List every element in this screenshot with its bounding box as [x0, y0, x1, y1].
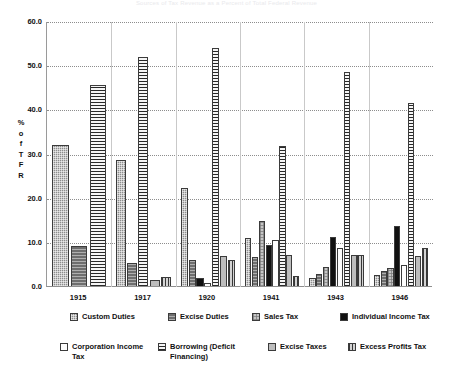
bar-borrow-1915: [90, 85, 107, 286]
y-axis-tick-label: 20.0: [0, 195, 42, 203]
bar-borrow-1917: [138, 57, 148, 286]
y-axis-title-char: %: [14, 118, 28, 129]
bar-corpinc-1946: [401, 265, 407, 286]
bar-group-1943: [304, 21, 368, 286]
legend-row-2: Corporation Income TaxBorrowing (Deficit…: [0, 342, 453, 372]
bar-borrow-1941: [279, 146, 285, 286]
y-axis-title-char: o: [14, 129, 28, 140]
chart-container: Sources of Tax Revenue as a Percent of T…: [0, 0, 453, 378]
legend-item-excprof[interactable]: Excess Profits Tax: [348, 342, 448, 352]
bar-borrow-1920: [212, 48, 219, 287]
bar-corpinc-1943: [337, 248, 343, 286]
y-axis-title-char: F: [14, 160, 28, 171]
bar-indinc-1920: [196, 278, 203, 286]
bar-indinc-1941: [266, 245, 272, 286]
legend-label: Custom Duties: [82, 312, 135, 322]
legend-swatch-corpinc: [60, 343, 68, 351]
x-axis-label-1946: 1946: [375, 293, 425, 302]
legend-label: Excess Profits Tax: [360, 342, 426, 352]
y-axis-title-char: f: [14, 139, 28, 150]
bar-indinc-1943: [330, 237, 336, 286]
bar-group-1920: [176, 21, 240, 286]
x-axis-label-1920: 1920: [182, 293, 232, 302]
x-axis-label-1915: 1915: [53, 293, 103, 302]
legend-label: Individual Income Tax: [352, 312, 430, 322]
bar-excised-1941: [252, 257, 258, 286]
bar-exctax-1920: [220, 256, 227, 286]
y-axis-tick-label: 0.0: [0, 283, 42, 291]
y-axis-tick-label: 40.0: [0, 106, 42, 114]
y-axis-title: %ofTFR: [14, 118, 28, 181]
bar-custom-1941: [245, 238, 251, 286]
x-axis-label-1941: 1941: [246, 293, 296, 302]
plot-area: [46, 22, 432, 287]
legend-row-1: Custom DutiesExcise DutiesSales TaxIndiv…: [0, 312, 453, 342]
bar-group-1941: [240, 21, 304, 286]
bar-excprof-1943: [357, 255, 363, 286]
bar-borrow-1946: [408, 103, 414, 286]
legend-item-custom[interactable]: Custom Duties: [70, 312, 165, 322]
bar-exctax-1943: [351, 255, 357, 286]
legend-label: Excise Taxes: [280, 342, 327, 352]
chart-legend: Custom DutiesExcise DutiesSales TaxIndiv…: [0, 312, 453, 372]
legend-item-exctax[interactable]: Excise Taxes: [268, 342, 346, 352]
bar-group-1946: [369, 21, 433, 286]
bar-excised-1920: [189, 260, 196, 286]
y-axis-tick-label: 60.0: [0, 18, 42, 26]
legend-swatch-indinc: [340, 313, 348, 321]
legend-item-sales[interactable]: Sales Tax: [252, 312, 337, 322]
bar-exctax-1941: [286, 255, 292, 286]
y-axis-title-char: R: [14, 171, 28, 182]
legend-item-excised[interactable]: Excise Duties: [168, 312, 250, 322]
bar-group-1917: [111, 21, 175, 286]
y-axis-tick-label: 10.0: [0, 239, 42, 247]
bar-excprof-1920: [228, 260, 235, 287]
bar-custom-1915: [52, 145, 69, 286]
legend-swatch-exctax: [268, 343, 276, 351]
x-axis-label-1917: 1917: [118, 293, 168, 302]
bar-sales-1941: [259, 221, 265, 286]
legend-swatch-excised: [168, 313, 176, 321]
bar-custom-1920: [181, 188, 188, 286]
chart-title: Sources of Tax Revenue as a Percent of T…: [0, 0, 453, 6]
legend-item-borrow[interactable]: Borrowing (Deficit Financing): [158, 342, 263, 361]
bar-exctax-1917: [150, 280, 160, 286]
bar-excised-1943: [316, 274, 322, 286]
legend-item-indinc[interactable]: Individual Income Tax: [340, 312, 430, 322]
bar-borrow-1943: [344, 72, 350, 286]
legend-label: Borrowing (Deficit Financing): [170, 342, 263, 361]
bar-excprof-1917: [161, 277, 171, 286]
bar-excised-1946: [381, 271, 387, 286]
legend-label: Excise Duties: [180, 312, 229, 322]
legend-swatch-custom: [70, 313, 78, 321]
legend-label: Corporation Income Tax: [72, 342, 155, 361]
bar-excprof-1941: [293, 276, 299, 286]
bar-excised-1917: [127, 263, 137, 286]
bar-sales-1943: [323, 267, 329, 286]
bar-custom-1943: [309, 278, 315, 286]
bar-corpinc-1941: [272, 240, 278, 286]
bar-excised-1915: [71, 246, 88, 286]
bar-indinc-1946: [394, 226, 400, 286]
legend-swatch-excprof: [348, 343, 356, 351]
y-axis-title-char: T: [14, 150, 28, 161]
legend-item-corpinc[interactable]: Corporation Income Tax: [60, 342, 155, 361]
x-axis-label-1943: 1943: [311, 293, 361, 302]
bar-group-1915: [47, 21, 111, 286]
bar-exctax-1946: [415, 256, 421, 286]
bar-excprof-1946: [422, 248, 428, 286]
y-axis-tick-label: 50.0: [0, 62, 42, 70]
bar-corpinc-1920: [204, 283, 211, 286]
bar-custom-1917: [116, 160, 126, 286]
legend-label: Sales Tax: [264, 312, 298, 322]
bar-custom-1946: [374, 275, 380, 286]
bar-sales-1946: [387, 268, 393, 286]
legend-swatch-borrow: [158, 343, 166, 351]
legend-swatch-sales: [252, 313, 260, 321]
